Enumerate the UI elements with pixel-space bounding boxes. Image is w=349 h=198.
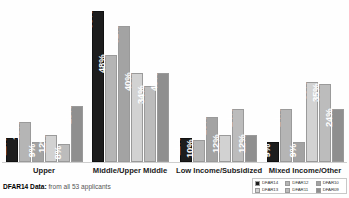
category-label-upper: Upper: [4, 165, 84, 177]
category-label-mixed-income-other: Mixed Income/Other: [263, 165, 347, 177]
footnote-rest: from all 53 applicants: [47, 183, 111, 190]
bar-value-label: 24%: [324, 108, 334, 126]
bar[interactable]: 61%: [118, 26, 130, 162]
category-label-middle-upper-middle: Middle/Upper Middle: [87, 165, 173, 177]
legend-swatch-icon: [285, 188, 290, 193]
bar-value-label: 68%: [84, 10, 94, 28]
bar-group-mixed-income-other: 9% 24% 9% 36% 35% 24%: [263, 6, 347, 162]
chart-legend: DFAR14 DFAR12 DFAR10 DFAR13 DFAR11 DFAR0…: [252, 178, 347, 194]
bar[interactable]: 34%: [144, 86, 156, 162]
bar-value-label: 12%: [211, 135, 221, 153]
legend-swatch-icon: [316, 181, 321, 186]
bar-value-label: 48%: [97, 55, 107, 73]
bar-value-label: 25%: [63, 106, 73, 124]
bar-group-upper: 11% 18% 9% 12% 8% 25%: [4, 6, 84, 162]
category-label-low-income-subsidized: Low Income/Subsidized: [176, 165, 260, 177]
bar-value-label: 11%: [172, 137, 182, 155]
plot-area: 11% 18% 9% 12% 8% 25%: [0, 6, 349, 162]
bar[interactable]: 68%: [92, 11, 104, 162]
bar-value-label: 10%: [185, 139, 195, 157]
bar-group-middle-upper-middle: 68% 48% 61% 40% 34% 40%: [87, 6, 173, 162]
bar[interactable]: 12%: [245, 135, 257, 162]
legend-swatch-icon: [255, 188, 260, 193]
legend-item-dfar12[interactable]: DFAR12: [285, 180, 313, 186]
bar[interactable]: 11%: [6, 138, 18, 162]
legend-label: DFAR12: [292, 180, 308, 186]
footnote-strong: DFAR14 Data:: [3, 183, 47, 190]
bar-value-label: 40%: [123, 72, 133, 90]
bar-groups: 11% 18% 9% 12% 8% 25%: [4, 6, 347, 162]
bar[interactable]: 9%: [293, 142, 305, 162]
bar-value-label: 34%: [136, 86, 146, 104]
legend-item-dfar09[interactable]: DFAR09: [316, 187, 344, 193]
bar-value-label: 40%: [149, 72, 159, 90]
bar-value-label: 8%: [52, 146, 62, 159]
bar-group-low-income-subsidized: 11% 10% 20% 12% 24% 12%: [176, 6, 260, 162]
bar[interactable]: 48%: [105, 55, 117, 162]
bar-value-label: 24%: [224, 108, 234, 126]
bar[interactable]: 25%: [71, 106, 83, 162]
bar-value-label: 36%: [298, 81, 308, 99]
bar-value-label: 9%: [261, 144, 271, 157]
bar-value-label: 20%: [198, 117, 208, 135]
legend-label: DFAR14: [262, 180, 278, 186]
bar[interactable]: 10%: [193, 140, 205, 162]
bar-value-label: 12%: [37, 135, 47, 153]
bar-value-label: 9%: [287, 144, 297, 157]
legend-item-dfar14[interactable]: DFAR14: [255, 180, 283, 186]
x-axis-line: [2, 162, 347, 163]
chart-footnote: DFAR14 Data: from all 53 applicants: [3, 182, 111, 191]
legend-swatch-icon: [255, 181, 260, 186]
bar[interactable]: 24%: [332, 109, 344, 163]
bar-value-label: 61%: [110, 26, 120, 44]
legend-item-dfar13[interactable]: DFAR13: [255, 187, 283, 193]
bar-value-label: 35%: [311, 84, 321, 102]
bar-value-label: 18%: [11, 121, 21, 139]
legend-swatch-icon: [285, 181, 290, 186]
bar[interactable]: 9%: [267, 142, 279, 162]
bar-value-label: 24%: [272, 108, 282, 126]
legend-label: DFAR09: [323, 187, 339, 193]
legend-item-dfar11[interactable]: DFAR11: [285, 187, 313, 193]
category-axis-labels: Upper Middle/Upper Middle Low Income/Sub…: [4, 165, 347, 177]
bar-value-label: 12%: [237, 135, 247, 153]
bar[interactable]: 12%: [219, 135, 231, 162]
grouped-bar-chart: 11% 18% 9% 12% 8% 25%: [0, 0, 349, 198]
legend-item-dfar10[interactable]: DFAR10: [316, 180, 344, 186]
legend-label: DFAR13: [262, 187, 278, 193]
legend-label: DFAR11: [292, 187, 308, 193]
bar-value-label: 9%: [26, 144, 36, 157]
legend-swatch-icon: [316, 188, 321, 193]
legend-label: DFAR10: [323, 180, 339, 186]
bar[interactable]: 40%: [157, 73, 169, 162]
bar[interactable]: 8%: [58, 144, 70, 162]
bar-value-label: 11%: [0, 137, 7, 155]
